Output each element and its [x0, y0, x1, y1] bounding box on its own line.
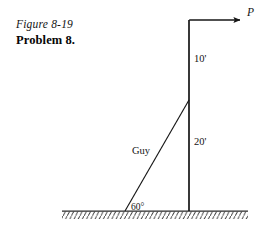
- ground-hatching: [62, 212, 248, 219]
- force-label-P: P: [246, 6, 254, 18]
- statics-diagram: P 10' 20' Guy 60°: [0, 0, 265, 228]
- angle-label-60: 60°: [131, 202, 145, 212]
- lower-segment-label: 20': [194, 136, 207, 147]
- figure-8-19: Figure 8-19 Problem 8. P 10' 20' Guy 60°: [0, 0, 265, 228]
- upper-segment-label: 10': [194, 53, 207, 64]
- guy-wire-label: Guy: [132, 145, 151, 156]
